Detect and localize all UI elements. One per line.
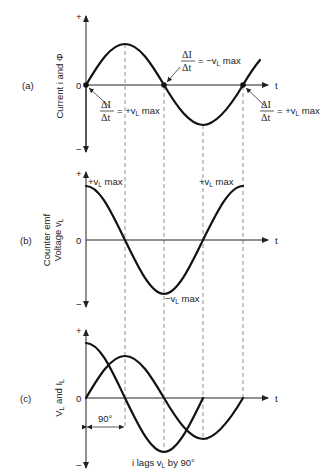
panel-b-ylabel-line1: Counter emf	[41, 214, 52, 267]
panel-b: (b) Counter emf Voltage vL + − 0 t +vL m…	[20, 168, 278, 310]
panel-b-tag: (b)	[20, 235, 32, 246]
panel-c-minus: −	[76, 460, 82, 471]
svg-text:= +vL max: = +vL max	[277, 105, 320, 117]
panel-c-plus: +	[76, 325, 82, 336]
phase-label: 90°	[98, 413, 113, 424]
panel-a-plus: +	[76, 11, 82, 22]
panel-a-ylabel: Current i and Φ	[54, 53, 65, 119]
annotation-slope-mid: ΔI Δt = −vL max	[167, 49, 241, 82]
inductor-phase-diagram: (a) Current i and Φ + − 0 t ΔI Δt = +vL …	[0, 0, 331, 475]
zero-crossing-dot	[240, 82, 246, 88]
svg-text:= −vL max: = −vL max	[198, 55, 241, 67]
svg-text:ΔI: ΔI	[261, 99, 271, 110]
svg-text:Δt: Δt	[182, 62, 191, 73]
lag-caption: i lags vL by 90°	[132, 457, 195, 469]
svg-text:= +vL max: = +vL max	[117, 105, 160, 117]
svg-text:Δt: Δt	[261, 112, 270, 123]
panel-a-tag: (a)	[22, 80, 34, 91]
vl-max-right-label: +vL max	[199, 176, 234, 188]
panel-c-xlabel: t	[275, 393, 278, 404]
panel-c-ylabel: VL and IL	[53, 379, 65, 417]
panel-a-zero: 0	[76, 80, 81, 91]
svg-text:ΔI: ΔI	[101, 99, 111, 110]
panel-a-xlabel: t	[275, 80, 278, 91]
zero-crossing-dot	[83, 82, 89, 88]
zero-crossing-dot	[161, 82, 167, 88]
svg-text:ΔI: ΔI	[182, 49, 192, 60]
panel-b-ylabel-line2: Voltage vL	[52, 218, 64, 261]
annotation-slope-left: ΔI Δt = +vL max	[89, 88, 160, 123]
svg-text:Δt: Δt	[101, 112, 110, 123]
panel-c: (c) VL and IL + − 0 t 90° i lags vL by 9…	[20, 325, 278, 471]
panel-b-zero: 0	[76, 235, 81, 246]
panel-b-plus: +	[76, 168, 82, 179]
panel-a-minus: −	[76, 144, 82, 155]
panel-c-tag: (c)	[20, 393, 31, 404]
panel-b-xlabel: t	[275, 235, 278, 246]
panel-c-zero: 0	[76, 393, 81, 404]
annotation-slope-right: ΔI Δt = +vL max	[246, 88, 320, 123]
vl-max-left-label: +vL max	[88, 176, 123, 188]
vl-min-label: −vL max	[165, 293, 200, 305]
panel-b-minus: −	[76, 299, 82, 310]
panel-a: (a) Current i and Φ + − 0 t ΔI Δt = +vL …	[22, 11, 320, 155]
